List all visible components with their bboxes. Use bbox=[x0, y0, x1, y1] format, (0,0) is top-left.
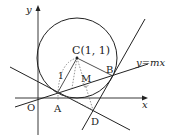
label-x-axis: x bbox=[142, 99, 148, 110]
label-m: M bbox=[81, 73, 91, 84]
label-origin: O bbox=[27, 102, 35, 113]
line-y-mx bbox=[15, 64, 148, 107]
label-b: B bbox=[106, 64, 113, 75]
label-a: A bbox=[53, 103, 62, 114]
label-d: D bbox=[91, 116, 99, 127]
tangent-line-b bbox=[82, 19, 145, 130]
label-radius: 1 bbox=[58, 71, 64, 81]
segment-cd-dotted bbox=[77, 58, 93, 110]
geometry-diagram: C(1, 1) 1 M B A D O x y y=mx bbox=[0, 0, 173, 138]
label-c: C(1, 1) bbox=[72, 44, 110, 57]
point-c bbox=[76, 57, 79, 60]
y-axis-arrow-icon bbox=[36, 5, 41, 11]
label-line-y-mx: y=mx bbox=[135, 57, 166, 68]
label-y-axis: y bbox=[25, 4, 32, 15]
